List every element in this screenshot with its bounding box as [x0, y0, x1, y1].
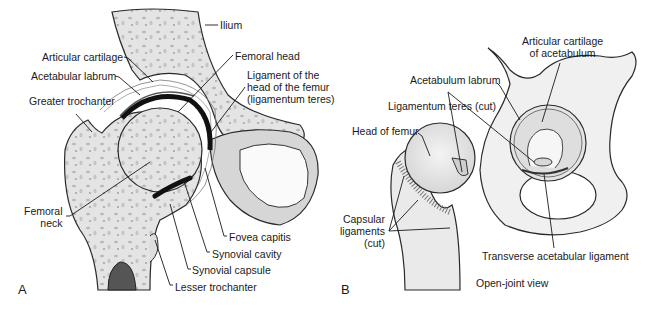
- label-ligament-head-of-femur: Ligament of the head of the femur (ligam…: [247, 69, 335, 105]
- label-ilium: Ilium: [220, 19, 242, 31]
- label-femoral-head: Femoral head: [235, 50, 300, 62]
- panel-b-letter: B: [341, 282, 350, 297]
- label-synovial-capsule: Synovial capsule: [192, 264, 271, 276]
- label-transverse-acetabular-ligament: Transverse acetabular ligament: [482, 250, 629, 262]
- label-greater-trochanter: Greater trochanter: [29, 95, 115, 107]
- label-capsular-ligaments-cut: Capsular ligaments (cut): [340, 213, 385, 249]
- panel-a-letter: A: [18, 282, 27, 297]
- label-articular-cartilage: Articular cartilage: [42, 51, 123, 63]
- label-articular-cartilage-of-acetabulum: Articular cartilage of acetabulum: [522, 35, 603, 59]
- label-head-of-femur: Head of femur: [352, 125, 419, 137]
- label-fovea-capitis: Fovea capitis: [229, 231, 291, 243]
- label-femoral-neck: Femoral neck: [24, 205, 63, 229]
- caption-open-joint-view: Open-joint view: [476, 277, 548, 289]
- label-acetabulum-labrum: Acetabulum labrum: [410, 74, 500, 86]
- label-lesser-trochanter: Lesser trochanter: [175, 281, 257, 293]
- label-synovial-cavity: Synovial cavity: [212, 248, 281, 260]
- label-acetabular-labrum: Acetabular labrum: [31, 70, 116, 82]
- label-ligamentum-teres-cut: Ligamentum teres (cut): [388, 100, 496, 112]
